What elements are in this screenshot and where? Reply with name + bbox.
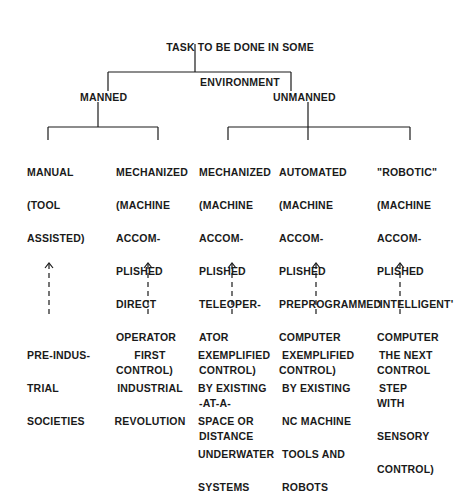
example-space-underwater: EXEMPLIFIED BY EXISTING SPACE OR UNDERWA… — [198, 328, 274, 495]
node-line: "ROBOTIC" — [377, 167, 453, 178]
node-line: (MACHINE — [279, 200, 381, 211]
node-line: TELEOPER- — [199, 299, 271, 310]
node-line: CONTROL) — [377, 464, 453, 475]
example-line: ROBOTS — [282, 482, 354, 493]
root-label-line: TASK TO BE DONE IN SOME — [120, 42, 360, 53]
node-line: ACCOM- — [116, 233, 188, 244]
example-line: PRE-INDUS- — [27, 350, 90, 361]
node-line: ACCOM- — [377, 233, 453, 244]
node-line: PREPROGRAMMED — [279, 299, 381, 310]
root-label-line: ENVIRONMENT — [120, 77, 360, 88]
branch-unmanned: UNMANNED — [273, 92, 336, 103]
node-line: DIRECT — [116, 299, 188, 310]
example-nc-machine: EXEMPLIFIED BY EXISTING NC MACHINE TOOLS… — [282, 328, 354, 495]
example-line: SYSTEMS — [198, 482, 274, 493]
node-line: PLISHED — [199, 266, 271, 277]
root-node: TASK TO BE DONE IN SOME ENVIRONMENT — [120, 20, 360, 99]
example-line: EXEMPLIFIED — [282, 350, 354, 361]
node-line: (MACHINE — [199, 200, 271, 211]
example-line: NC MACHINE — [282, 416, 354, 427]
node-line: MECHANIZED — [116, 167, 188, 178]
node-line: PLISHED — [377, 266, 453, 277]
example-pre-industrial: PRE-INDUS- TRIAL SOCIETIES — [27, 328, 90, 438]
example-first-industrial: FIRST INDUSTRIAL REVOLUTION — [114, 328, 186, 438]
node-line: (MACHINE — [377, 200, 453, 211]
example-line: THE NEXT — [379, 350, 433, 361]
example-line: BY EXISTING — [198, 383, 274, 394]
example-line: REVOLUTION — [114, 416, 186, 427]
example-line: EXEMPLIFIED — [198, 350, 274, 361]
node-line: ACCOM- — [279, 233, 381, 244]
node-line: MECHANIZED — [199, 167, 271, 178]
node-line: 'INTELLIGENT' — [377, 299, 453, 310]
example-line: FIRST — [114, 350, 186, 361]
node-manual: MANUAL (TOOL ASSISTED) — [27, 145, 85, 255]
arrow-up-icon — [45, 263, 53, 318]
example-line: SOCIETIES — [27, 416, 90, 427]
node-line: ACCOM- — [199, 233, 271, 244]
example-line: INDUSTRIAL — [114, 383, 186, 394]
node-line: (MACHINE — [116, 200, 188, 211]
node-line: (TOOL — [27, 200, 85, 211]
node-robotic: "ROBOTIC" (MACHINE ACCOM- PLISHED 'INTEL… — [377, 145, 453, 486]
example-line: TRIAL — [27, 383, 90, 394]
example-line: SPACE OR — [198, 416, 274, 427]
example-line: TOOLS AND — [282, 449, 354, 460]
node-line: PLISHED — [116, 266, 188, 277]
example-line: STEP — [379, 383, 433, 394]
example-next-step: THE NEXT STEP — [379, 328, 433, 405]
node-line: ASSISTED) — [27, 233, 85, 244]
example-line: BY EXISTING — [282, 383, 354, 394]
branch-manned: MANNED — [80, 92, 127, 103]
example-line: UNDERWATER — [198, 449, 274, 460]
node-line: SENSORY — [377, 431, 453, 442]
node-line: AUTOMATED — [279, 167, 381, 178]
node-line: PLISHED — [279, 266, 381, 277]
node-line: MANUAL — [27, 167, 85, 178]
